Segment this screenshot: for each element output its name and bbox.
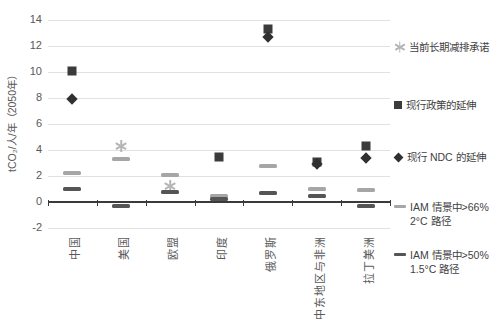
x-category-label: 拉丁美洲 [360, 236, 376, 284]
y-tick-label: 4 [8, 143, 42, 155]
x-category-label: 中东地区与非洲 [311, 236, 327, 319]
legend-label-line: IAM 情景中>66% [410, 200, 489, 214]
legend-item: 现行 NDC 的延伸 [394, 150, 486, 164]
marker-dash-cat2 [161, 173, 179, 177]
gridline-y-8 [48, 98, 390, 99]
x-category-label: 印度 [213, 236, 229, 260]
axis-tick [146, 200, 147, 206]
marker-dash-cat4 [259, 164, 277, 168]
axis-tick [48, 200, 49, 206]
axis-tick [97, 200, 98, 206]
legend-label: IAM 情景中>50%1.5°C 路径 [410, 248, 489, 276]
legend-label-line: 2°C 路径 [410, 214, 489, 228]
legend-label: IAM 情景中>66%2°C 路径 [410, 200, 489, 228]
y-tick-label: 14 [8, 13, 42, 25]
y-tick-label: 0 [8, 195, 42, 207]
marker-square-cat6 [361, 142, 370, 151]
gridline-y-2 [48, 176, 390, 177]
legend-label: 当前长期减排承诺 [409, 40, 489, 54]
marker-dash-cat6 [357, 188, 375, 192]
marker-dash-cat4 [259, 191, 277, 195]
axis-tick [341, 200, 342, 206]
axis-tick [195, 200, 196, 206]
x-category-label: 中国 [66, 236, 82, 260]
legend-asterisk-icon [394, 42, 405, 53]
legend-item: IAM 情景中>66%2°C 路径 [394, 200, 489, 228]
y-tick-label: 12 [8, 39, 42, 51]
marker-dash-cat2 [161, 190, 179, 194]
marker-square-cat3 [215, 152, 224, 161]
legend-diamond-icon [394, 152, 404, 162]
gridline-y--2 [48, 228, 390, 229]
legend-item: 当前长期减排承诺 [394, 40, 489, 54]
legend-label-line: 1.5°C 路径 [410, 262, 489, 276]
gridline-y-6 [48, 124, 390, 125]
gridline-y-4 [48, 150, 390, 151]
marker-dash-cat0 [63, 171, 81, 175]
gridline-y-12 [48, 46, 390, 47]
x-category-label: 欧盟 [164, 236, 180, 260]
marker-square-cat0 [68, 66, 77, 75]
marker-dash-cat1 [112, 204, 130, 208]
axis-tick [390, 200, 391, 206]
marker-dash-cat3 [210, 197, 228, 201]
gridline-y-14 [48, 20, 390, 21]
legend-label: 现行 NDC 的延伸 [407, 150, 486, 164]
legend-item: IAM 情景中>50%1.5°C 路径 [394, 248, 489, 276]
marker-diamond-cat6 [360, 152, 371, 163]
y-tick-label: 2 [8, 169, 42, 181]
legend-square-icon [394, 101, 402, 109]
legend-dash-icon [394, 205, 406, 208]
legend: 当前长期减排承诺现行政策的延伸现行 NDC 的延伸IAM 情景中>66%2°C … [394, 0, 503, 319]
per-capita-emissions-chart: tCO₂/人/年（2050年） 14121086420-2中国美国欧盟印度俄罗斯… [0, 0, 503, 319]
legend-label: 现行政策的延伸 [406, 98, 476, 112]
y-tick-label: 6 [8, 117, 42, 129]
marker-dash-cat1 [112, 157, 130, 161]
axis-tick [292, 200, 293, 206]
legend-label-line: IAM 情景中>50% [410, 248, 489, 262]
marker-dash-cat5 [308, 194, 326, 198]
gridline-y-10 [48, 72, 390, 73]
marker-dash-cat5 [308, 187, 326, 191]
x-category-label: 美国 [115, 236, 131, 260]
marker-diamond-cat0 [67, 94, 78, 105]
marker-dash-cat0 [63, 187, 81, 191]
y-tick-label: 10 [8, 65, 42, 77]
y-tick-label: -2 [8, 221, 42, 233]
y-tick-label: 8 [8, 91, 42, 103]
x-category-label: 俄罗斯 [262, 236, 278, 272]
marker-dash-cat6 [357, 204, 375, 208]
legend-item: 现行政策的延伸 [394, 98, 476, 112]
axis-tick [243, 200, 244, 206]
legend-dash-icon [394, 253, 406, 256]
